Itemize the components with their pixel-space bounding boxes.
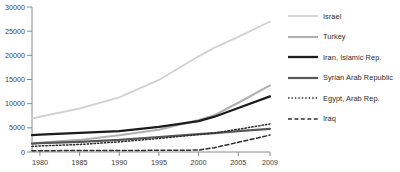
legend-label: Egypt, Arab Rep.	[318, 95, 380, 102]
y-axis: 050001000015000200002500030000	[5, 3, 32, 157]
legend-label: Israel	[318, 13, 341, 20]
x-axis-ticks	[40, 152, 270, 156]
legend-swatch	[288, 73, 318, 83]
y-tick-label: 20000	[5, 51, 25, 60]
y-axis-tick-labels: 050001000015000200002500030000	[5, 3, 25, 157]
legend-label: Turkey	[318, 33, 346, 40]
legend-item[interactable]: Iran, Islamic Rep.	[288, 47, 400, 68]
legend-swatch	[288, 52, 318, 62]
legend-swatch	[288, 93, 318, 103]
legend-swatch	[288, 32, 318, 42]
legend-item[interactable]: Syrian Arab Republic	[288, 68, 400, 89]
legend-swatch	[288, 114, 318, 124]
y-tick-label: 15000	[5, 75, 25, 84]
legend-label: Syrian Arab Republic	[318, 74, 393, 81]
y-axis-ticks	[27, 7, 32, 152]
caption-strip	[0, 163, 400, 172]
y-tick-label: 5000	[9, 123, 25, 132]
data-series-group	[32, 22, 270, 151]
y-tick-label: 0	[21, 148, 25, 157]
legend-label: Iraq	[318, 115, 336, 122]
legend-label: Iran, Islamic Rep.	[318, 54, 381, 61]
legend-item[interactable]: Egypt, Arab Rep.	[288, 88, 400, 109]
chart-legend: IsraelTurkeyIran, Islamic Rep.Syrian Ara…	[288, 6, 400, 129]
line-chart: 050001000015000200002500030000 198019851…	[0, 0, 400, 172]
legend-item[interactable]: Iraq	[288, 109, 400, 130]
series-line	[32, 85, 270, 143]
y-tick-label: 30000	[5, 3, 25, 12]
y-tick-label: 25000	[5, 27, 25, 36]
legend-item[interactable]: Turkey	[288, 27, 400, 48]
legend-item[interactable]: Israel	[288, 6, 400, 27]
legend-swatch	[288, 11, 318, 21]
y-tick-label: 10000	[5, 99, 25, 108]
